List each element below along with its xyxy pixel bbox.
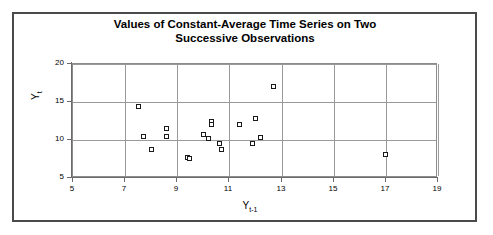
y-axis-label-text: Y [30,93,41,100]
y-tick-mark-10 [67,139,72,140]
x-tick-label-9: 9 [164,184,188,193]
gridline-x-17 [386,64,387,176]
x-tick-mark-19 [437,177,438,182]
y-axis-line [71,62,72,178]
y-tick-mark-20 [67,63,72,64]
data-point [271,84,276,89]
data-point [209,122,214,127]
chart-title: Values of Constant-Average Time Series o… [40,17,450,45]
gridline-y-20 [73,64,436,65]
y-tick-label-5: 5 [42,172,64,181]
data-point [253,116,258,121]
data-point [219,147,224,152]
y-axis-label: Yt [30,91,43,100]
x-tick-mark-15 [333,177,334,182]
gridline-x-11 [229,64,230,176]
x-axis-line [71,177,438,178]
plot-area [72,63,437,177]
data-point [383,152,388,157]
x-tick-label-15: 15 [321,184,345,193]
gridline-x-19 [438,64,439,176]
data-point [141,134,146,139]
x-tick-mark-9 [176,177,177,182]
gridline-x-15 [334,64,335,176]
data-point [136,104,141,109]
x-tick-label-19: 19 [425,184,449,193]
x-tick-mark-17 [385,177,386,182]
gridline-x-7 [125,64,126,176]
gridline-x-13 [282,64,283,176]
y-axis-label-subscript: t [36,91,43,93]
x-tick-mark-5 [72,177,73,182]
x-tick-label-13: 13 [269,184,293,193]
gridline-x-9 [177,64,178,176]
data-point [149,147,154,152]
y-tick-mark-15 [67,101,72,102]
x-tick-mark-7 [124,177,125,182]
x-axis-label: Yt-1 [195,200,305,213]
y-tick-label-15: 15 [42,96,64,105]
data-point [187,156,192,161]
figure-root: Values of Constant-Average Time Series o… [0,0,493,235]
chart-title-line-1: Values of Constant-Average Time Series o… [40,17,450,31]
data-point [164,126,169,131]
x-tick-mark-11 [228,177,229,182]
y-tick-label-20: 20 [42,58,64,67]
data-point [217,141,222,146]
data-point [206,136,211,141]
x-tick-label-17: 17 [373,184,397,193]
y-tick-label-10: 10 [42,134,64,143]
data-point [164,134,169,139]
data-point [258,135,263,140]
data-point [250,141,255,146]
x-tick-mark-13 [281,177,282,182]
x-axis-label-subscript: t-1 [249,206,257,213]
x-tick-label-11: 11 [216,184,240,193]
chart-title-line-2: Successive Observations [40,31,450,45]
x-tick-label-5: 5 [60,184,84,193]
data-point [237,122,242,127]
gridline-y-15 [73,102,436,103]
x-tick-label-7: 7 [112,184,136,193]
